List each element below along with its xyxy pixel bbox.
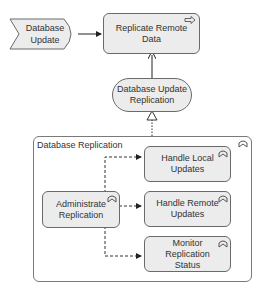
service-database-update-replication[interactable]: Database Update Replication <box>112 78 192 112</box>
process-label-line2: Data <box>116 34 188 45</box>
function-monitor-replication-status[interactable]: Monitor Replication Status <box>144 236 231 272</box>
process-replicate-remote-data[interactable]: Replicate Remote Data <box>103 13 200 54</box>
process-label-line1: Replicate Remote <box>116 23 188 34</box>
function-label-line2: Updates <box>161 164 214 175</box>
function-handle-remote-updates[interactable]: Handle Remote Updates <box>144 191 231 227</box>
service-label-line1: Database Update <box>117 84 187 95</box>
function-administrate-replication[interactable]: Administrate Replication <box>42 191 120 228</box>
function-icon <box>218 194 228 203</box>
function-icon <box>107 194 117 203</box>
admin-label-line1: Administrate <box>56 199 106 210</box>
event-database-update[interactable]: Database Update <box>19 22 71 46</box>
event-label-line2: Update <box>19 34 71 46</box>
admin-label-line2: Replication <box>56 210 106 221</box>
event-label-line1: Database <box>19 22 71 34</box>
function-icon <box>218 239 228 248</box>
function-icon <box>218 149 228 158</box>
function-label-line3: Status <box>165 260 210 271</box>
function-handle-local-updates[interactable]: Handle Local Updates <box>144 146 231 182</box>
function-label-line1: Monitor <box>165 238 210 249</box>
function-label-line2: Replication <box>165 249 210 260</box>
function-label-line1: Handle Remote <box>156 198 219 209</box>
function-label-line1: Handle Local <box>161 153 214 164</box>
function-label-line2: Updates <box>156 209 219 220</box>
process-arrow-icon <box>184 16 196 24</box>
service-label-line2: Replication <box>117 95 187 106</box>
